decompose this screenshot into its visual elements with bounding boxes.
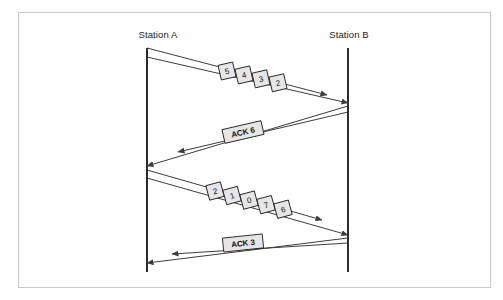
- frames-2-1-0-7-6-frame-0: 0: [240, 191, 258, 209]
- station-a-label: Station A: [139, 29, 178, 40]
- frames-2-1-0-7-6-frame-7: 7: [257, 195, 275, 213]
- frames-2-1-0-7-6-frame-2: 2: [206, 182, 224, 200]
- frames-2-1-0-7-6-frame-1: 1: [223, 186, 241, 204]
- frames-5-4-3-2-frame-2: 2: [269, 74, 287, 92]
- figure-root: Station AStation B5432ACK 621076ACK 3: [0, 0, 503, 300]
- transmission-frames-2-1-0-7-6: 21076: [147, 170, 348, 235]
- timing-diagram: Station AStation B5432ACK 621076ACK 3: [0, 0, 503, 300]
- transmission-frames-5-4-3-2: 5432: [147, 48, 348, 103]
- station-station-b: Station B: [329, 29, 368, 272]
- frames-2-1-0-7-6-frame-6: 6: [274, 200, 292, 218]
- station-station-a: Station A: [139, 29, 178, 272]
- frames-5-4-3-2-frame-3: 3: [252, 70, 270, 88]
- frames-5-4-3-2-frame-5: 5: [218, 62, 236, 80]
- transmission-ack-3: ACK 3: [147, 234, 348, 263]
- ack-6-label-group: ACK 6: [222, 121, 264, 144]
- transmission-ack-6: ACK 6: [147, 106, 348, 166]
- frames-5-4-3-2-frame-4: 4: [235, 66, 253, 84]
- station-b-label: Station B: [329, 29, 368, 40]
